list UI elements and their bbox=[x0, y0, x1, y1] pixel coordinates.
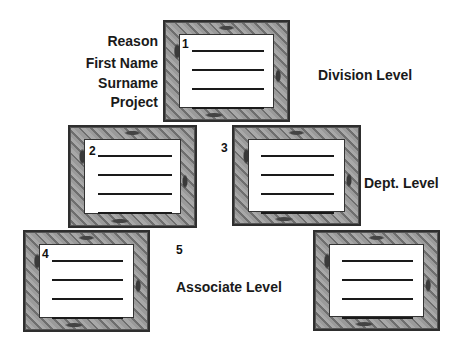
form-panel bbox=[329, 244, 424, 317]
dept-level-label: Dept. Level bbox=[364, 175, 439, 191]
form-line bbox=[98, 174, 172, 176]
form-frame-3 bbox=[232, 125, 361, 226]
form-line bbox=[342, 317, 413, 319]
field-label-surname: Surname bbox=[38, 75, 158, 91]
field-label-first-name: First Name bbox=[38, 55, 158, 71]
form-line bbox=[261, 212, 334, 214]
frame-number-5: 5 bbox=[176, 243, 183, 257]
form-line bbox=[261, 155, 334, 157]
field-label-project: Project bbox=[38, 94, 158, 110]
form-panel: 4 bbox=[39, 244, 134, 318]
form-panel: 2 bbox=[84, 139, 181, 214]
form-line bbox=[192, 69, 264, 71]
form-line bbox=[192, 88, 264, 90]
form-line bbox=[52, 260, 123, 262]
frame-number: 4 bbox=[42, 247, 49, 261]
associate-level-label: Associate Level bbox=[176, 279, 282, 295]
form-frame-5 bbox=[313, 230, 440, 331]
division-level-label: Division Level bbox=[318, 67, 412, 83]
form-line bbox=[52, 317, 123, 319]
form-panel bbox=[248, 139, 345, 212]
form-frame-1: 1 bbox=[163, 20, 290, 122]
form-line bbox=[342, 260, 413, 262]
form-frame-4: 4 bbox=[23, 230, 150, 332]
frame-number: 2 bbox=[89, 144, 96, 158]
form-line bbox=[52, 279, 123, 281]
frame-number: 1 bbox=[182, 37, 189, 51]
form-line bbox=[98, 193, 172, 195]
frame-number-3: 3 bbox=[221, 141, 228, 155]
form-line bbox=[98, 155, 172, 157]
form-line bbox=[52, 298, 123, 300]
form-line bbox=[98, 212, 172, 214]
field-label-reason: Reason bbox=[38, 33, 158, 49]
form-line bbox=[192, 107, 264, 109]
form-frame-2: 2 bbox=[68, 125, 197, 228]
form-line bbox=[342, 298, 413, 300]
form-panel: 1 bbox=[179, 34, 274, 108]
form-line bbox=[261, 174, 334, 176]
form-line bbox=[261, 193, 334, 195]
form-line bbox=[192, 50, 264, 52]
form-line bbox=[342, 279, 413, 281]
